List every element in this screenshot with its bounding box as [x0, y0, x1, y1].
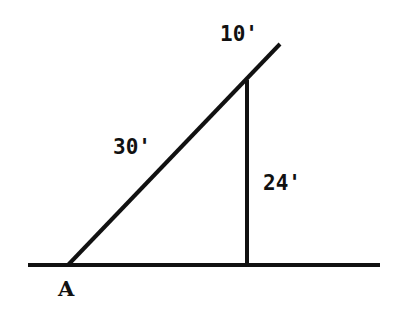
diagram-canvas [0, 0, 395, 320]
label-point-a: A [58, 278, 74, 299]
label-hypotenuse: 30' [113, 137, 151, 158]
label-vertical: 24' [263, 173, 301, 194]
label-top-segment: 10' [220, 24, 258, 45]
